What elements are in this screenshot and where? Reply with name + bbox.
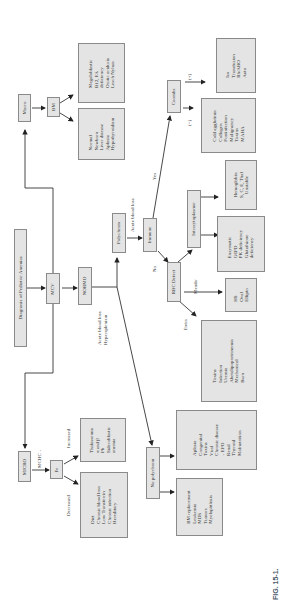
mcv-node: MCV	[46, 273, 60, 304]
acute-blood-loss-label: Acute blood loss	[130, 198, 136, 232]
no-polychrom-node: No polychrom	[146, 447, 160, 499]
fe-node: Fe	[50, 460, 63, 479]
coombs-positive-list: IsoTransfusionRh/ABOAuto	[216, 38, 256, 93]
intracytoplasmic-node: Intracytoplasmic	[187, 190, 201, 248]
root-label: Diagnosis of Pediatric Anemias	[18, 256, 24, 319]
enzymatic-list: EnzymaticG6PDPK deficiencyGlutathionedef…	[217, 216, 265, 272]
polychrom-node: Polychrom	[112, 213, 126, 253]
acute-hypersplenism-label: Acute blood lossHypersplenism	[97, 311, 108, 345]
increased-label: Increased	[66, 429, 72, 448]
hemoglobin-list: HemoglobinS, C, E, ThalUnstable	[225, 160, 257, 210]
normo-node: NORMO	[78, 267, 92, 305]
fe-increased-list: Thalassemiaα and βPbSideroblasticanemia	[80, 418, 126, 462]
membrane-list: HSOvalEllipto	[225, 278, 257, 312]
coombs-pos-label: (+)	[187, 74, 193, 80]
no-polychrom-bm-replacement-list: BM replacementLeukemiaMDSTumorsMyelophth…	[176, 478, 223, 536]
mchc-label: MCHC ↓	[37, 450, 43, 468]
fe-decreased-list: DietChronic blood lossLow TransferrinChr…	[80, 472, 128, 538]
coombs-node: Coombs	[167, 80, 181, 113]
extra-label: Extra	[183, 319, 189, 330]
root-node: Diagnosis of Pediatric Anemias	[14, 229, 27, 347]
immune-node: Immune	[143, 218, 157, 252]
bm-megaloblastic-list: MegaloblasticB12, FAdeficiencyOrotic aci…	[78, 43, 125, 103]
extracorpuscular-list: ToxinsInfectionUremiaAbetalipoproteinemi…	[201, 320, 257, 402]
no-label: No	[152, 266, 158, 272]
rbc-defect-node: RBC Defect	[167, 262, 181, 302]
bm-normal-list: NormalNewbornLiver diseaseAplasiaHypothy…	[78, 108, 125, 160]
coombs-negative-list: Cold agglutininCollagenPostinfectionMali…	[201, 98, 256, 153]
bm-node: BM	[47, 97, 60, 117]
macro-node: Macro	[18, 94, 31, 122]
membr-label: Membr	[193, 279, 199, 294]
yes-label: Yes	[152, 173, 158, 180]
bm-normal-text: NormalNewbornLiver diseaseAplasiaHypothy…	[88, 118, 116, 151]
decreased-label: Decreased	[66, 495, 72, 516]
micro-node: MICRO	[18, 451, 31, 482]
coombs-neg-label: (−)	[187, 120, 193, 126]
no-polychrom-aplasia-list: AplasiaCongenitalToxinsViralChronic dise…	[176, 410, 257, 470]
figure-caption: FIG. 15-1.	[272, 568, 279, 600]
